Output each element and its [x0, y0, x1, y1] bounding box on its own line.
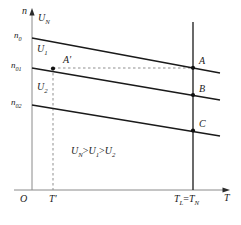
voltage-temperature-diagram: n T O n0 n01 n02 T′ TL=TN UN U1 U2 A′ A …	[0, 0, 241, 225]
curve-label-U2-sub: 2	[44, 87, 47, 94]
point-label-C: C	[199, 119, 206, 129]
point-marker-A	[191, 66, 195, 70]
ineq-term-3: U	[105, 145, 112, 156]
curve-label-U1: U1	[37, 44, 48, 57]
x-tick-label-TL-TN: TL=TN	[174, 194, 199, 207]
y-tick-sub-n02: 02	[16, 103, 22, 109]
origin-label: O	[20, 194, 27, 204]
curve-label-UN: UN	[38, 13, 50, 26]
ineq-sub-3: 2	[112, 151, 115, 158]
point-label-A: A	[199, 56, 205, 66]
y-tick-sub-n0: 0	[19, 36, 22, 42]
y-axis-arrowhead	[29, 8, 34, 16]
curve-label-U2: U2	[37, 82, 48, 95]
point-marker-B	[191, 93, 195, 97]
inequality-annotation: UN>U1>U2	[71, 146, 115, 159]
curve-label-UN-sub: N	[45, 18, 50, 25]
ineq-term-2: U	[88, 145, 95, 156]
point-label-Aprime: A′	[63, 55, 71, 65]
y-tick-label-n0: n0	[14, 31, 22, 42]
point-marker-Aprime	[51, 66, 55, 70]
curve-label-U1-sub: 1	[44, 49, 47, 56]
y-tick-label-n01: n01	[11, 61, 22, 72]
y-axis-label: n	[22, 6, 27, 16]
diagram-canvas	[0, 0, 241, 225]
x-tick-prime-Tprime: ′	[55, 193, 57, 204]
point-label-B: B	[199, 84, 205, 94]
x-tick-TN-sub: N	[195, 199, 200, 206]
x-tick-label-Tprime: T′	[49, 194, 57, 204]
y-tick-sub-n01: 01	[16, 66, 22, 72]
y-tick-label-n02: n02	[11, 98, 22, 109]
point-marker-C	[191, 128, 195, 132]
axis-group	[14, 8, 230, 193]
x-axis-label: T	[224, 193, 230, 203]
